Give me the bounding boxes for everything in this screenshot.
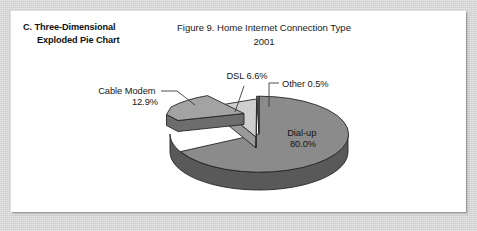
pie-label-dsl: DSL 6.6% — [226, 71, 267, 81]
pie-label-dialup-value: 80.0% — [290, 139, 316, 149]
pie-chart: Dial-up 80.0% — [11, 11, 466, 212]
pie-label-cable-modem-name: Cable Modem — [98, 86, 156, 96]
pie-label-dialup-name: Dial-up — [287, 128, 316, 138]
pie-label-dialup: Dial-up 80.0% — [287, 128, 319, 149]
pie-label-other: Other 0.5% — [282, 79, 329, 89]
figure-card: C. Three-Dimensional Exploded Pie Chart … — [11, 11, 466, 212]
screenshot-root: C. Three-Dimensional Exploded Pie Chart … — [0, 0, 477, 231]
pie-slice-cable-modem — [167, 96, 245, 132]
pie-label-cable-modem: Cable Modem 12.9% — [98, 86, 158, 107]
pie-label-cable-modem-value: 12.9% — [132, 97, 158, 107]
